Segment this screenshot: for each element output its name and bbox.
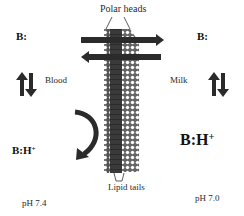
lipid-tails-pointer xyxy=(114,173,124,181)
equilibrium-arrows-right xyxy=(208,72,229,97)
lipid-tails-label: Lipid tails xyxy=(108,182,145,192)
left-base-label: B: xyxy=(16,30,27,42)
left-compartment-label: Blood xyxy=(45,75,67,85)
equilibrium-arrows-left xyxy=(16,72,37,97)
right-compartment-label: Milk xyxy=(170,75,188,85)
right-base-label: B: xyxy=(197,30,208,42)
polar-heads-pointer xyxy=(106,17,130,29)
polar-heads-label: Polar heads xyxy=(100,3,146,14)
right-conjugate-acid-label: B:H+ xyxy=(180,131,214,149)
curved-arrow xyxy=(75,112,96,160)
left-ph-label: pH 7.4 xyxy=(22,198,47,208)
right-ph-label: pH 7.0 xyxy=(195,193,220,203)
lipid-bilayer xyxy=(104,29,139,173)
left-conjugate-acid-label: B:H+ xyxy=(12,144,36,156)
